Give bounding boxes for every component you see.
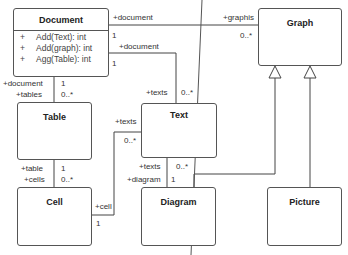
class-name: Graph bbox=[259, 18, 341, 28]
role-label: +diagram bbox=[127, 175, 161, 184]
visibility-public: + bbox=[20, 32, 25, 42]
multiplicity-label: 1 bbox=[112, 59, 116, 68]
multiplicity-label: 1 bbox=[112, 31, 116, 40]
class-name: Table bbox=[18, 112, 91, 122]
class-name: Text bbox=[142, 110, 216, 120]
operation-signature: Agg(Table): int bbox=[36, 54, 91, 64]
role-label: +texts bbox=[115, 117, 137, 126]
class-name: Cell bbox=[18, 197, 91, 207]
role-label: +document bbox=[119, 42, 159, 51]
class-diagram[interactable]: Diagram bbox=[141, 187, 216, 246]
visibility-public: + bbox=[20, 43, 25, 53]
operation: + Agg(Table): int bbox=[14, 54, 108, 65]
multiplicity-label: 0..* bbox=[61, 90, 73, 99]
multiplicity-label: 0..* bbox=[240, 31, 252, 40]
multiplicity-label: 1 bbox=[61, 79, 65, 88]
visibility-public: + bbox=[20, 54, 25, 64]
multiplicity-label: 1 bbox=[171, 175, 175, 184]
operations-list: + Add(Text): int + Add(graph): int + Agg… bbox=[14, 32, 108, 65]
role-label: +texts bbox=[139, 162, 161, 171]
operation: + Add(Text): int bbox=[14, 32, 108, 43]
generalization-arrow-icon bbox=[304, 66, 316, 78]
class-name: Document bbox=[14, 15, 108, 25]
class-document-header: Document bbox=[14, 9, 108, 31]
class-table[interactable]: Table bbox=[17, 102, 92, 160]
role-label: +graphis bbox=[223, 13, 254, 22]
multiplicity-label: 1 bbox=[96, 219, 100, 228]
class-name: Picture bbox=[268, 197, 341, 207]
multiplicity-label: 0..* bbox=[124, 136, 136, 145]
role-label: +table bbox=[21, 164, 43, 173]
class-cell[interactable]: Cell bbox=[17, 187, 92, 246]
operation-signature: Add(Text): int bbox=[36, 32, 86, 42]
multiplicity-label: 0..* bbox=[61, 175, 73, 184]
operation: + Add(graph): int bbox=[14, 43, 108, 54]
multiplicity-label: 1 bbox=[61, 164, 65, 173]
role-label: +cell bbox=[95, 202, 112, 211]
class-document[interactable]: Document + Add(Text): int + Add(graph): … bbox=[13, 8, 109, 77]
role-label: +cells bbox=[24, 175, 45, 184]
role-label: +texts bbox=[146, 88, 168, 97]
multiplicity-label: 0..* bbox=[176, 162, 188, 171]
generalization-arrow-icon bbox=[269, 66, 281, 78]
class-picture[interactable]: Picture bbox=[267, 187, 342, 246]
class-text[interactable]: Text bbox=[141, 103, 217, 158]
operation-signature: Add(graph): int bbox=[36, 43, 92, 53]
role-label: +document bbox=[3, 79, 43, 88]
multiplicity-label: 0..* bbox=[181, 88, 193, 97]
class-name: Diagram bbox=[142, 197, 215, 207]
role-label: +document bbox=[113, 13, 153, 22]
class-graph[interactable]: Graph bbox=[258, 8, 342, 66]
role-label: +tables bbox=[16, 90, 42, 99]
